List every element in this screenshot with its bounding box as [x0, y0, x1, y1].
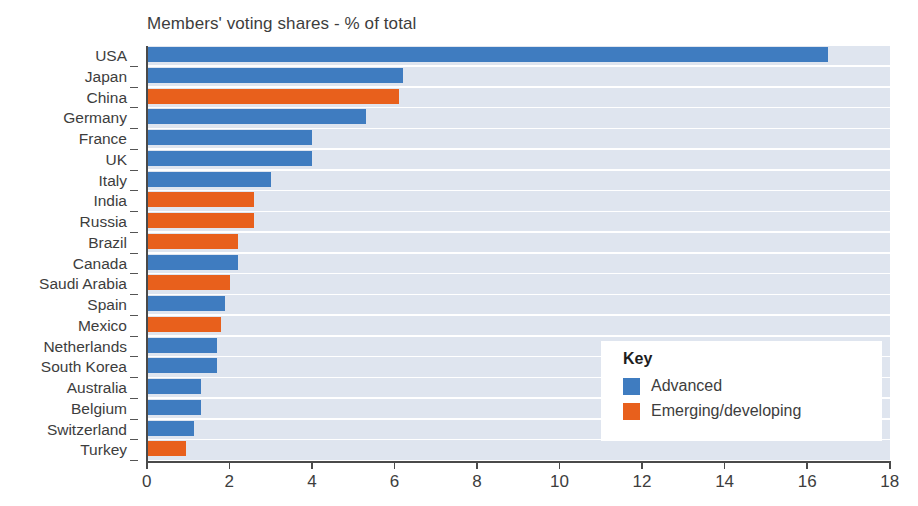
bar-mexico: [147, 317, 221, 332]
bar-track: [147, 295, 890, 314]
y-tick: [130, 149, 138, 150]
bar-track: [147, 440, 890, 459]
bar-track: [147, 316, 890, 335]
y-label-mexico: Mexico: [78, 318, 127, 333]
x-tick: [889, 461, 891, 469]
y-tick: [130, 87, 138, 88]
y-tick: [130, 190, 138, 191]
y-axis-category-labels: USAJapanChinaGermanyFranceUKItalyIndiaRu…: [0, 46, 138, 461]
x-tick: [476, 461, 478, 469]
x-tick: [394, 461, 396, 469]
y-label-china: China: [87, 90, 128, 105]
y-tick: [130, 170, 138, 171]
y-label-switzerland: Switzerland: [47, 422, 127, 437]
legend-label-advanced: Advanced: [651, 377, 722, 395]
bar-canada: [147, 255, 238, 270]
y-label-japan: Japan: [85, 69, 127, 84]
bar-france: [147, 130, 312, 145]
bar-uk: [147, 151, 312, 166]
bar-track: [147, 191, 890, 210]
y-tick: [130, 107, 138, 108]
y-tick: [130, 273, 138, 274]
x-tick-label-18: 18: [880, 472, 899, 492]
x-tick-label-0: 0: [142, 472, 151, 492]
y-tick: [130, 460, 138, 461]
x-tick: [229, 461, 231, 469]
y-label-turkey: Turkey: [80, 442, 127, 457]
chart-title: Members' voting shares - % of total: [147, 14, 416, 34]
y-tick: [130, 439, 138, 440]
y-label-uk: UK: [105, 152, 127, 167]
x-tick-label-14: 14: [715, 472, 734, 492]
x-tick: [806, 461, 808, 469]
y-label-india: India: [93, 193, 127, 208]
x-tick-label-8: 8: [472, 472, 481, 492]
x-tick-label-12: 12: [633, 472, 652, 492]
bar-spain: [147, 296, 225, 311]
chart-figure: Members' voting shares - % of total USAJ…: [0, 0, 918, 506]
y-label-italy: Italy: [99, 173, 127, 188]
y-tick: [130, 356, 138, 357]
y-label-canada: Canada: [73, 256, 127, 271]
y-axis-line: [146, 46, 148, 461]
y-tick: [130, 336, 138, 337]
y-label-russia: Russia: [80, 214, 127, 229]
legend-item-emerging: Emerging/developing: [623, 402, 882, 420]
bar-japan: [147, 68, 403, 83]
legend-item-advanced: Advanced: [623, 377, 882, 395]
y-tick: [130, 232, 138, 233]
bar-china: [147, 89, 399, 104]
bar-belgium: [147, 400, 201, 415]
y-tick: [130, 211, 138, 212]
y-tick: [130, 398, 138, 399]
bar-track: [147, 233, 890, 252]
y-label-brazil: Brazil: [88, 235, 127, 250]
x-tick-label-16: 16: [798, 472, 817, 492]
x-axis-line: [146, 461, 890, 463]
y-tick: [130, 253, 138, 254]
y-tick: [130, 315, 138, 316]
y-label-belgium: Belgium: [71, 401, 127, 416]
legend-swatch-advanced: [623, 378, 640, 395]
y-label-france: France: [79, 131, 127, 146]
bar-track: [147, 274, 890, 293]
x-tick-label-6: 6: [390, 472, 399, 492]
bar-south-korea: [147, 358, 217, 373]
y-tick: [130, 377, 138, 378]
bar-saudi-arabia: [147, 275, 230, 290]
bar-italy: [147, 172, 271, 187]
x-tick: [146, 461, 148, 469]
x-tick: [559, 461, 561, 469]
x-tick: [724, 461, 726, 469]
x-tick-label-4: 4: [307, 472, 316, 492]
y-tick: [130, 66, 138, 67]
bar-track: [147, 254, 890, 273]
bar-russia: [147, 213, 254, 228]
legend-title: Key: [623, 350, 882, 368]
x-tick-label-10: 10: [550, 472, 569, 492]
y-label-germany: Germany: [63, 110, 127, 125]
bar-germany: [147, 109, 366, 124]
chart-legend: Key Advanced Emerging/developing: [601, 341, 882, 441]
bar-usa: [147, 47, 828, 62]
y-tick: [130, 294, 138, 295]
y-label-south-korea: South Korea: [41, 359, 127, 374]
bar-brazil: [147, 234, 238, 249]
x-tick: [311, 461, 313, 469]
bar-switzerland: [147, 421, 194, 436]
legend-swatch-emerging: [623, 403, 640, 420]
y-label-usa: USA: [95, 48, 127, 63]
legend-label-emerging: Emerging/developing: [651, 402, 801, 420]
y-label-saudi-arabia: Saudi Arabia: [39, 276, 127, 291]
y-label-spain: Spain: [87, 297, 127, 312]
x-tick: [641, 461, 643, 469]
x-tick-label-2: 2: [225, 472, 234, 492]
y-tick: [130, 419, 138, 420]
bar-turkey: [147, 441, 186, 456]
bar-track: [147, 212, 890, 231]
bar-india: [147, 192, 254, 207]
y-label-netherlands: Netherlands: [43, 339, 127, 354]
y-label-australia: Australia: [67, 380, 127, 395]
y-tick: [130, 128, 138, 129]
bar-netherlands: [147, 338, 217, 353]
